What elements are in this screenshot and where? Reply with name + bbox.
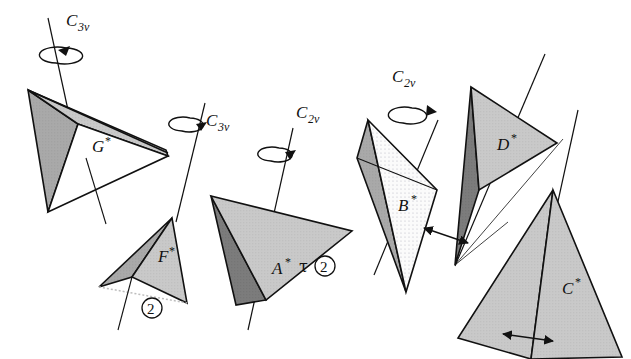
shape-label-B-star: * (411, 192, 417, 206)
axis-label-c3v-mid-sub: 3v (217, 120, 230, 134)
axis-label-c3v-mid-main: C (206, 111, 218, 130)
axis-label-c3v-left-sub: 3v (77, 20, 90, 34)
axis-label-c3v-left-main: C (66, 11, 78, 30)
axis-label-c2v-mid-main: C (296, 103, 308, 122)
shape-label-F: F (157, 247, 169, 266)
axis-label-c2v-right-sub: 2v (404, 76, 416, 90)
circled-number-2-a: 2 (320, 259, 328, 275)
shape-label-B: B (398, 196, 409, 215)
axis-label-c2v-mid-sub: 2v (308, 112, 320, 126)
shape-label-A: A (271, 259, 283, 278)
shape-label-G-star: * (105, 134, 111, 148)
shape-label-D: D (496, 135, 510, 154)
shape-label-G: G (92, 137, 104, 156)
circled-number-2-f: 2 (147, 301, 155, 317)
shape-label-F-star: * (169, 244, 175, 258)
shape-label-C-star: * (575, 275, 581, 289)
shape-label-D-star: * (511, 131, 517, 145)
axis-label-c2v-right-main: C (392, 67, 404, 86)
tetrahedra-symmetry-diagram: G * C 3v F * C 3v 2 (0, 0, 631, 359)
tau-symbol: τ (299, 257, 308, 276)
figure-canvas: G * C 3v F * C 3v 2 (0, 0, 631, 359)
shape-label-A-star: * (285, 255, 291, 269)
shape-label-C: C (562, 279, 574, 298)
